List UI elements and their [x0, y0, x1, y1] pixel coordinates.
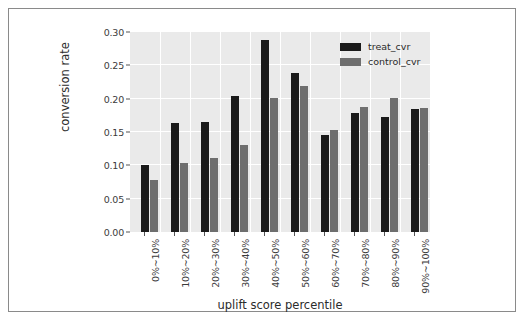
x-tick-mark: [294, 232, 295, 236]
bar-control_cvr: [210, 158, 218, 232]
y-tick-label: 0.25: [104, 60, 124, 71]
bar-control_cvr: [390, 98, 398, 232]
bar-group: [160, 32, 190, 232]
x-tick-mark: [144, 232, 145, 236]
y-tick-label: 0.30: [104, 27, 124, 38]
bar-group: [190, 32, 220, 232]
x-tick-label: 80%~90%: [389, 239, 400, 288]
bar-control_cvr: [330, 130, 338, 232]
x-axis: 0%~10%10%~20%20%~30%30%~40%40%~50%50%~60…: [130, 232, 430, 294]
legend-label: treat_cvr: [368, 41, 410, 52]
bar-treat_cvr: [411, 109, 419, 232]
chart-legend: treat_cvrcontrol_cvr: [338, 38, 422, 72]
y-tick-label: 0.10: [104, 160, 124, 171]
bar-treat_cvr: [351, 113, 359, 232]
bar-treat_cvr: [171, 123, 179, 232]
x-tick-label: 30%~40%: [239, 239, 250, 288]
x-tick-label: 70%~80%: [359, 239, 370, 288]
y-axis-label: conversion rate: [58, 42, 72, 132]
x-tick-label: 60%~70%: [329, 239, 340, 288]
x-tick-label: 20%~30%: [209, 239, 220, 288]
bar-control_cvr: [150, 180, 158, 232]
legend-swatch-treat_cvr: [340, 43, 361, 51]
x-tick-mark: [174, 232, 175, 236]
bar-control_cvr: [180, 163, 188, 232]
bar-control_cvr: [420, 108, 428, 232]
x-tick-label: 40%~50%: [269, 239, 280, 288]
x-tick-mark: [414, 232, 415, 236]
y-tick-mark: [126, 165, 130, 166]
x-tick-label: 0%~10%: [149, 239, 160, 282]
bar-treat_cvr: [291, 73, 299, 232]
y-tick-mark: [126, 98, 130, 99]
y-tick-label: 0.05: [104, 193, 124, 204]
y-axis: 0.000.050.100.150.200.250.30: [84, 32, 130, 232]
bar-treat_cvr: [321, 135, 329, 232]
bar-treat_cvr: [231, 96, 239, 232]
bar-group: [310, 32, 340, 232]
bar-treat_cvr: [261, 40, 269, 232]
legend-label: control_cvr: [368, 56, 420, 67]
bar-group: [130, 32, 160, 232]
x-tick-mark: [354, 232, 355, 236]
y-tick-mark: [126, 65, 130, 66]
y-tick-label: 0.15: [104, 127, 124, 138]
bar-treat_cvr: [201, 122, 209, 232]
x-tick-mark: [234, 232, 235, 236]
y-tick-mark: [126, 32, 130, 33]
x-tick-mark: [324, 232, 325, 236]
bar-control_cvr: [300, 86, 308, 232]
bar-treat_cvr: [141, 165, 149, 232]
bar-treat_cvr: [381, 117, 389, 232]
legend-swatch-control_cvr: [340, 58, 361, 66]
bar-group: [280, 32, 310, 232]
y-tick-mark: [126, 132, 130, 133]
legend-item: treat_cvr: [340, 40, 420, 53]
legend-item: control_cvr: [340, 55, 420, 68]
bar-control_cvr: [270, 98, 278, 232]
bar-control_cvr: [240, 145, 248, 232]
x-tick-mark: [384, 232, 385, 236]
y-tick-mark: [126, 198, 130, 199]
x-tick-label: 50%~60%: [299, 239, 310, 288]
x-tick-label: 10%~20%: [179, 239, 190, 288]
x-axis-label: uplift score percentile: [130, 298, 430, 312]
bar-control_cvr: [360, 107, 368, 232]
bar-group: [220, 32, 250, 232]
y-tick-label: 0.00: [104, 227, 124, 238]
x-tick-label: 90%~100%: [419, 239, 430, 294]
y-tick-label: 0.20: [104, 93, 124, 104]
bar-group: [250, 32, 280, 232]
x-tick-mark: [264, 232, 265, 236]
chart-figure: 0.000.050.100.150.200.250.30 conversion …: [0, 0, 526, 330]
x-tick-mark: [204, 232, 205, 236]
